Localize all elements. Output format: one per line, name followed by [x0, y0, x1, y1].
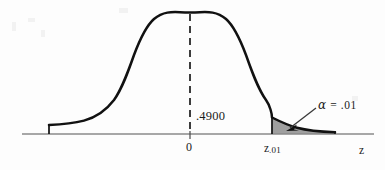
bell-curve-path	[49, 12, 335, 132]
alpha-equals-sign: =	[330, 99, 337, 111]
normal-curve-figure: .4900 α = .01 0 z.01 z	[0, 0, 385, 170]
alpha-symbol: α	[318, 98, 327, 112]
critical-value-label: z.01	[264, 143, 281, 155]
critical-value-subscript: .01	[269, 145, 281, 155]
origin-tick-label: 0	[186, 141, 192, 153]
alpha-leader-line	[290, 108, 316, 128]
z-axis-label: z	[359, 145, 364, 157]
alpha-value: .01	[341, 99, 357, 111]
normal-curve-plot	[0, 0, 385, 170]
area-label: .4900	[196, 110, 225, 123]
alpha-annotation: α = .01	[318, 99, 357, 112]
